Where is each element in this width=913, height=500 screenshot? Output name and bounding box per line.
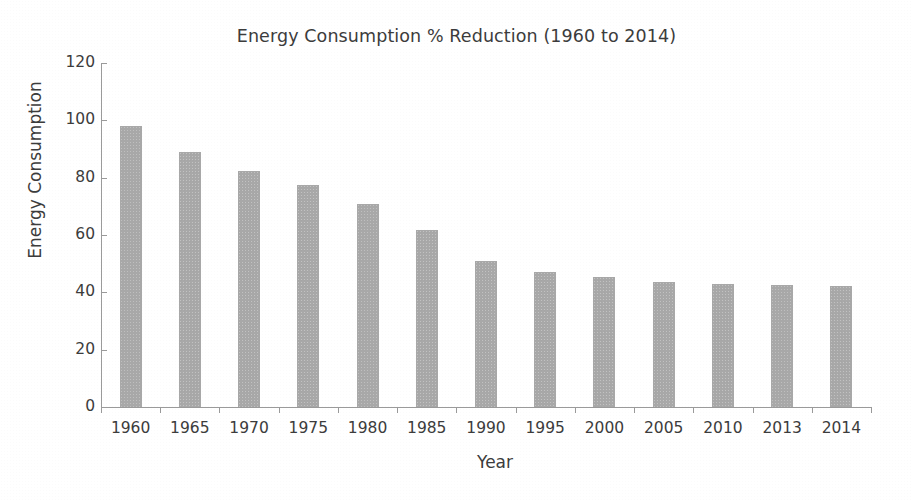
y-axis-tick: 100 [45, 120, 107, 121]
x-axis-tick-label: 2000 [574, 419, 634, 437]
x-axis-tick-mark [279, 407, 280, 413]
bar [534, 272, 556, 407]
bar [475, 261, 497, 407]
x-axis-tick-label: 1975 [278, 419, 338, 437]
bar [712, 284, 734, 407]
x-axis-tick-mark [575, 407, 576, 413]
bar [830, 286, 852, 407]
y-axis-tick-label: 120 [65, 53, 95, 71]
y-axis-tick-mark [101, 178, 107, 179]
y-axis-tick: 80 [45, 178, 107, 179]
bar [593, 277, 615, 407]
x-axis-tick-mark [871, 407, 872, 413]
y-axis-tick: 20 [45, 350, 107, 351]
y-axis-tick-mark [101, 235, 107, 236]
x-axis-tick-mark [753, 407, 754, 413]
x-axis-tick-label: 1990 [456, 419, 516, 437]
x-axis-tick-mark [338, 407, 339, 413]
x-axis-tick-label: 2014 [811, 419, 871, 437]
x-axis-title: Year [100, 452, 890, 472]
x-axis-tick-mark [693, 407, 694, 413]
bar [120, 126, 142, 407]
y-axis-tick-label: 0 [85, 397, 95, 415]
y-axis-tick-label: 80 [75, 168, 95, 186]
y-axis-tick: 120 [45, 63, 107, 64]
x-axis-tick-mark [634, 407, 635, 413]
y-axis-tick: 40 [45, 292, 107, 293]
x-axis-tick-mark [219, 407, 220, 413]
chart-title: Energy Consumption % Reduction (1960 to … [0, 26, 913, 46]
y-axis-tick-mark [101, 63, 107, 64]
x-axis-tick-label: 2005 [634, 419, 694, 437]
bar [771, 285, 793, 407]
x-axis-tick-label: 2013 [752, 419, 812, 437]
x-axis-tick-mark [812, 407, 813, 413]
x-axis-tick-label: 1980 [338, 419, 398, 437]
y-axis-tick-mark [101, 292, 107, 293]
y-axis-tick-mark [101, 350, 107, 351]
y-axis-title: Energy Consumption [25, 50, 45, 290]
x-axis-tick-mark [397, 407, 398, 413]
plot-area: 020406080100120 196019651970197519801985… [101, 63, 871, 407]
y-axis-tick-label: 100 [65, 110, 95, 128]
bar-chart: Energy Consumption % Reduction (1960 to … [0, 0, 913, 500]
bar [238, 171, 260, 407]
bar [416, 230, 438, 407]
y-axis-tick-mark [101, 120, 107, 121]
x-axis-tick-mark [516, 407, 517, 413]
x-axis-tick-label: 1960 [101, 419, 161, 437]
y-axis-tick-label: 20 [75, 340, 95, 358]
x-axis-tick-label: 1970 [219, 419, 279, 437]
y-axis-tick-label: 40 [75, 282, 95, 300]
y-axis-tick-label: 60 [75, 225, 95, 243]
x-axis-line [101, 407, 871, 408]
bar [653, 282, 675, 407]
x-axis-tick-label: 1985 [397, 419, 457, 437]
x-axis-tick-label: 2010 [693, 419, 753, 437]
x-axis-tick-label: 1965 [160, 419, 220, 437]
x-axis-tick-mark [160, 407, 161, 413]
bar [297, 185, 319, 407]
x-axis-tick-mark [101, 407, 102, 413]
x-axis-tick-mark [456, 407, 457, 413]
bar [357, 204, 379, 407]
bar [179, 152, 201, 407]
y-axis-tick: 60 [45, 235, 107, 236]
x-axis-tick-label: 1995 [515, 419, 575, 437]
y-axis-tick: 0 [45, 407, 107, 408]
